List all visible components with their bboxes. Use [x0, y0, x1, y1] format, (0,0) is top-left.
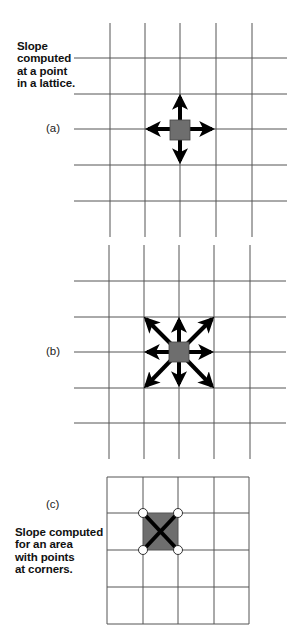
corner-point-icon	[139, 546, 148, 555]
panel-b	[74, 245, 286, 459]
corner-point-icon	[139, 509, 148, 518]
center-point-cell-a	[170, 120, 190, 140]
panel-c	[107, 477, 249, 624]
panel-a	[74, 23, 287, 237]
center-point-cell-b	[169, 342, 189, 362]
slope-diagram	[0, 0, 296, 637]
corner-point-icon	[174, 546, 183, 555]
corner-point-icon	[174, 509, 183, 518]
